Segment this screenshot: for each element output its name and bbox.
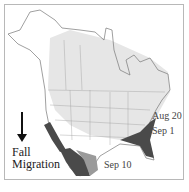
- date-label-sep1: Sep 1: [152, 126, 175, 136]
- date-label-sep10: Sep 10: [104, 160, 132, 170]
- map-title: Fall Migration: [12, 146, 60, 170]
- date-label-aug20: Aug 20: [152, 111, 182, 121]
- arrow-down-icon: [17, 134, 27, 142]
- direction-arrow: [21, 112, 23, 136]
- title-line-2: Migration: [12, 158, 60, 170]
